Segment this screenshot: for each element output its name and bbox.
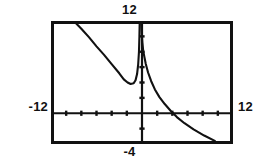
curve-branch-left (74, 21, 140, 84)
x-min-label: -12 (10, 100, 48, 114)
graph-plot-area (51, 21, 233, 144)
curve-branch-right (141, 21, 215, 141)
y-max-label: 12 (0, 3, 259, 17)
y-min-label: -4 (0, 145, 259, 159)
x-max-label: 12 (238, 100, 253, 114)
calculator-graph-figure: 12 -12 12 -4 (0, 0, 259, 166)
